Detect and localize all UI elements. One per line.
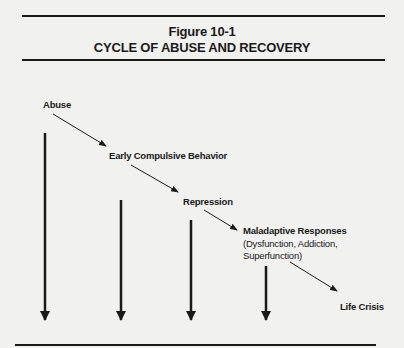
arrow-early-to-repression	[131, 165, 178, 192]
bottom-rule	[15, 344, 376, 346]
arrow-maladaptive-to-crisis	[290, 262, 337, 291]
node-repression: Repression	[183, 196, 233, 207]
arrow-abuse-to-early	[53, 114, 106, 146]
diagram-arrows	[0, 0, 404, 348]
node-abuse: Abuse	[43, 99, 71, 110]
maladaptive-detail-line2: Superfunction)	[243, 250, 302, 262]
node-maladaptive-responses: Maladaptive Responses	[243, 225, 347, 236]
maladaptive-detail-line1: (Dysfunction, Addiction,	[243, 238, 337, 250]
node-life-crisis: Life Crisis	[340, 301, 384, 312]
arrow-repression-to-maladaptive	[204, 210, 237, 230]
node-early-compulsive-behavior: Early Compulsive Behavior	[109, 150, 227, 161]
